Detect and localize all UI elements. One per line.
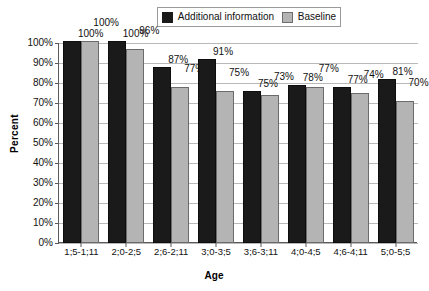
bar-group: 91%75%3;0-3;5 bbox=[194, 43, 239, 243]
bar-group: 81%70%5;0-5;5 bbox=[373, 43, 418, 243]
bar-additional-information: 78% bbox=[288, 85, 306, 243]
bar-group: 87%77%2;6-2;11 bbox=[149, 43, 194, 243]
x-axis-tick-label: 2;0-2;5 bbox=[112, 247, 142, 257]
bar-value-label: 100% bbox=[93, 18, 119, 28]
x-axis-tick-label: 4;0-4;5 bbox=[291, 247, 321, 257]
bar-baseline: 73% bbox=[261, 95, 279, 243]
x-axis-tick-label: 4;6-4;11 bbox=[334, 247, 368, 257]
legend-entry-baseline: Baseline bbox=[282, 12, 336, 23]
legend-label-baseline: Baseline bbox=[298, 12, 336, 22]
bar-additional-information: 75% bbox=[243, 91, 261, 243]
y-axis-tick-label: 70% bbox=[19, 98, 53, 108]
bar-value-label: 100% bbox=[78, 29, 104, 39]
bar-value-label: 78% bbox=[303, 73, 323, 83]
x-axis-title: Age bbox=[0, 270, 428, 281]
y-axis-tick-mark bbox=[55, 243, 59, 244]
x-axis-tick-label: 3;6-3;11 bbox=[244, 247, 278, 257]
plot-area: 100%90%80%70%60%50%40%30%20%10%0% 100%10… bbox=[58, 43, 417, 243]
bar-baseline: 96% bbox=[126, 49, 144, 243]
x-axis-tick-label: 1;5-1;11 bbox=[64, 247, 98, 257]
y-axis-tick-label: 100% bbox=[19, 38, 53, 48]
bar-baseline: 100% bbox=[81, 41, 99, 243]
chart-legend: Additional information Baseline bbox=[157, 7, 341, 27]
bar-baseline: 74% bbox=[351, 93, 369, 243]
bar-additional-information: 81% bbox=[378, 79, 396, 243]
y-axis-tick-label: 60% bbox=[19, 118, 53, 128]
dark-square-icon bbox=[162, 12, 173, 23]
bar-baseline: 77% bbox=[306, 87, 324, 243]
x-axis-tick-label: 2;6-2;11 bbox=[154, 247, 188, 257]
bar-value-label: 70% bbox=[409, 78, 429, 88]
light-square-icon bbox=[282, 12, 293, 23]
bar-group: 75%73%3;6-3;11 bbox=[239, 43, 284, 243]
y-axis-tick-label: 0% bbox=[19, 238, 53, 248]
x-axis-tick-label: 3;0-3;5 bbox=[201, 247, 231, 257]
bar-additional-information: 87% bbox=[153, 67, 171, 243]
bar-baseline: 75% bbox=[216, 91, 234, 243]
legend-entry-additional-information: Additional information bbox=[162, 12, 274, 23]
y-axis-tick-label: 30% bbox=[19, 178, 53, 188]
legend-label-additional-information: Additional information bbox=[178, 12, 274, 22]
gridline bbox=[59, 243, 418, 244]
bar-additional-information: 100% bbox=[108, 41, 126, 243]
bar-value-label: 91% bbox=[213, 47, 233, 57]
bar-baseline: 70% bbox=[396, 101, 414, 243]
bar-value-label: 96% bbox=[139, 26, 159, 36]
bar-group: 78%77%4;0-4;5 bbox=[283, 43, 328, 243]
y-axis-tick-label: 50% bbox=[19, 138, 53, 148]
bar-additional-information: 91% bbox=[198, 59, 216, 243]
bar-group: 77%74%4;6-4;11 bbox=[328, 43, 373, 243]
y-axis-tick-label: 80% bbox=[19, 78, 53, 88]
y-axis-title: Percent bbox=[9, 94, 20, 174]
y-axis-tick-label: 10% bbox=[19, 218, 53, 228]
bar-additional-information: 100% bbox=[63, 41, 81, 243]
y-axis-tick-label: 40% bbox=[19, 158, 53, 168]
bar-group: 100%96%2;0-2;5 bbox=[104, 43, 149, 243]
y-axis-tick-label: 20% bbox=[19, 198, 53, 208]
y-axis-tick-label: 90% bbox=[19, 58, 53, 68]
bar-additional-information: 77% bbox=[333, 87, 351, 243]
bar-groups: 100%100%1;5-1;11100%96%2;0-2;587%77%2;6-… bbox=[59, 43, 418, 243]
x-axis-tick-label: 5;0-5;5 bbox=[381, 247, 411, 257]
bar-value-label: 81% bbox=[393, 67, 413, 77]
bar-baseline: 77% bbox=[171, 87, 189, 243]
bar-group: 100%100%1;5-1;11 bbox=[59, 43, 104, 243]
